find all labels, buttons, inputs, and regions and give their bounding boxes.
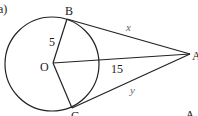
label-ob: 5 [49, 35, 55, 49]
corner-text: A. [186, 108, 197, 116]
label-ca: y [129, 84, 135, 96]
label-ba: x [125, 21, 131, 33]
part-label: a) [0, 2, 7, 16]
radius-oc [53, 63, 72, 108]
point-a-label: A [192, 49, 198, 63]
label-oa: 15 [111, 62, 123, 76]
diagram-svg: a) B O C A 5 15 x y A. [0, 0, 198, 116]
radius-ob [53, 19, 67, 63]
point-c-label: C [71, 109, 79, 116]
tangent-diagram: a) B O C A 5 15 x y A. [0, 0, 198, 116]
circle [5, 17, 99, 111]
tangent-ca [72, 54, 190, 108]
point-o-label: O [40, 60, 49, 74]
point-b-label: B [65, 4, 73, 18]
